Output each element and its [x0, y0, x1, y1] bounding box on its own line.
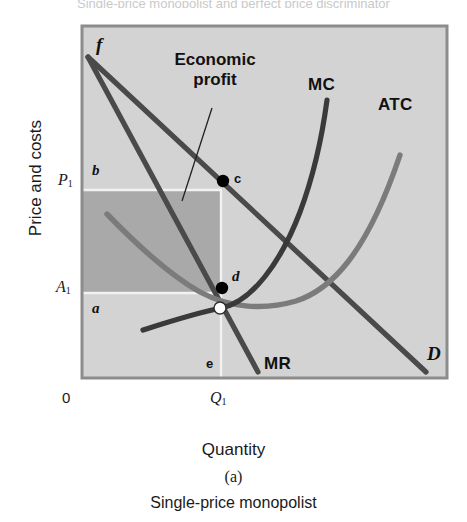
point-c-marker [217, 175, 229, 187]
point-label-a: a [92, 301, 100, 316]
mr-equals-mc-marker [214, 302, 226, 314]
origin-label: 0 [62, 390, 70, 405]
x-axis-label: Quantity [0, 440, 467, 460]
economic-profit-line2: profit [150, 70, 280, 90]
figure-caption: Single-price monopolist [0, 494, 467, 512]
economic-profit-rectangle [82, 190, 222, 293]
point-label-e: e [206, 357, 213, 370]
y-tick-a1: A1 [56, 279, 71, 296]
mc-curve-label: MC [308, 76, 335, 93]
panel-letter: (a) [0, 468, 467, 486]
point-label-f: f [96, 35, 102, 54]
point-label-b: b [92, 163, 100, 178]
economics-figure: Single-price monopolist and perfect pric… [0, 0, 467, 522]
mr-curve-label: MR [264, 355, 291, 372]
economic-profit-line1: Economic [150, 50, 280, 70]
y-tick-p1: P1 [58, 172, 73, 189]
point-label-c: c [234, 172, 241, 185]
y-axis-label: Price and costs [26, 98, 46, 258]
atc-curve-label: ATC [378, 96, 413, 113]
point-d-marker [216, 282, 228, 294]
demand-curve-label: D [427, 344, 441, 363]
point-label-d: d [232, 269, 240, 284]
economic-profit-annotation: Economic profit [150, 50, 280, 90]
x-tick-q1: Q1 [210, 390, 227, 407]
